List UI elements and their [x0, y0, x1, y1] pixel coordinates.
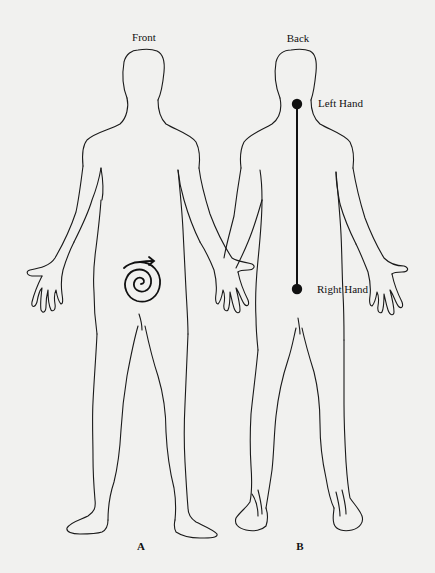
right-hand-point	[292, 284, 302, 294]
panel-label-b: B	[296, 540, 303, 552]
right-hand-label: Right Hand	[317, 283, 368, 295]
front-body-outline	[27, 49, 254, 538]
back-body-outline	[224, 49, 408, 530]
left-hand-label: Left Hand	[318, 97, 363, 109]
body-diagram	[0, 0, 435, 573]
panel-label-a: A	[137, 540, 145, 552]
left-hand-point	[292, 99, 302, 109]
front-view-label: Front	[132, 31, 156, 43]
spine-connector	[292, 99, 302, 294]
back-view-label: Back	[287, 32, 310, 44]
clockwise-spiral-arrow-icon	[124, 257, 160, 302]
